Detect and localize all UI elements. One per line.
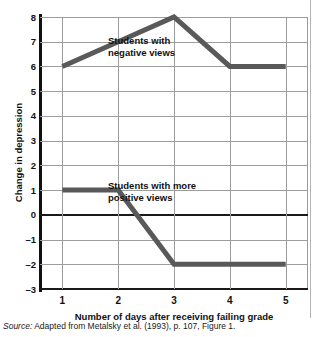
annotation-negative-views-line2: negative views — [108, 47, 175, 59]
y-axis-tick-label: 6 — [14, 62, 36, 72]
y-axis-tick-label: 4 — [14, 111, 36, 121]
x-axis-tick-label: 2 — [106, 296, 130, 306]
y-axis-tick-label: –3 — [14, 285, 36, 295]
x-axis-tick-labels: 12345 — [40, 296, 308, 308]
y-axis-tick-label: 3 — [14, 136, 36, 146]
y-axis-tick-label: –2 — [14, 260, 36, 270]
source-note-label: Source: — [3, 321, 32, 331]
x-axis-tick-label: 5 — [274, 296, 298, 306]
annotation-positive-views-line1: Students with more — [108, 180, 196, 192]
annotation-negative-views: Students with negative views — [108, 35, 175, 59]
y-axis-tick-label: 8 — [14, 13, 36, 23]
y-axis-tick-label: –1 — [14, 235, 36, 245]
y-axis-tick-label: 0 — [14, 210, 36, 220]
page-edge-rule — [310, 0, 311, 318]
clipped-header-text — [3, 0, 153, 7]
y-axis-tick-label: 5 — [14, 87, 36, 97]
annotation-positive-views-line2: positive views — [108, 192, 196, 204]
x-axis-tick-label: 4 — [218, 296, 242, 306]
annotation-positive-views: Students with more positive views — [108, 180, 196, 204]
y-axis-tick-label: 2 — [14, 161, 36, 171]
y-axis-tick-labels: 876543210–1–2–3 — [10, 17, 36, 289]
y-axis-tick-label: 7 — [14, 37, 36, 47]
figure-container: Change in depression 876543210–1–2–3 123… — [0, 0, 317, 337]
y-axis-tick-label: 1 — [14, 186, 36, 196]
x-axis-tick-label: 3 — [162, 296, 186, 306]
source-note: Source: Adapted from Metalsky et al. (19… — [3, 321, 235, 332]
x-axis-tick-label: 1 — [50, 296, 74, 306]
annotation-negative-views-line1: Students with — [108, 35, 175, 47]
source-note-text: Adapted from Metalsky et al. (1993), p. … — [32, 321, 235, 331]
